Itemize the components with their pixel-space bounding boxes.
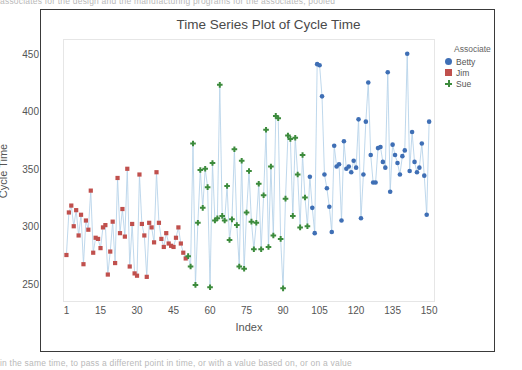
square-marker — [120, 207, 124, 211]
circle-marker — [410, 130, 415, 135]
circle-marker — [351, 158, 356, 163]
x-tick-label: 45 — [168, 305, 179, 316]
square-marker — [150, 225, 154, 229]
square-marker — [89, 189, 93, 193]
square-marker — [81, 262, 85, 266]
plus-marker — [227, 237, 233, 243]
square-marker — [98, 246, 102, 250]
plus-marker — [246, 168, 252, 174]
circle-marker — [412, 160, 417, 165]
circle-marker — [339, 218, 344, 223]
square-marker — [152, 240, 156, 244]
y-axis-label-text: Cycle Time — [0, 143, 9, 197]
x-tick-label: 60 — [204, 305, 215, 316]
x-axis-ticks: 1153045607590105120135150 — [63, 305, 435, 319]
plus-marker — [302, 195, 308, 201]
plus-marker — [205, 184, 211, 190]
y-tick-label: 300 — [17, 221, 39, 232]
document-text-below: in the same time, to pass a different po… — [0, 358, 522, 370]
circle-marker — [373, 180, 378, 185]
circle-marker — [327, 204, 332, 209]
plus-marker — [271, 233, 277, 239]
square-marker — [86, 228, 90, 232]
circle-marker — [398, 172, 403, 177]
square-marker — [179, 241, 183, 245]
screenshot-page: associates for the design and the manufa… — [0, 0, 522, 370]
square-marker — [171, 245, 175, 249]
square-marker — [154, 170, 158, 174]
square-marker — [77, 233, 81, 237]
circle-marker — [347, 164, 352, 169]
square-marker — [111, 220, 115, 224]
circle-marker — [402, 148, 407, 153]
plus-marker — [268, 164, 274, 170]
square-marker — [135, 274, 139, 278]
plus-marker — [195, 220, 201, 226]
x-tick-label: 30 — [131, 305, 142, 316]
circle-marker — [308, 175, 313, 180]
circle-marker — [385, 70, 390, 75]
series-jim — [64, 167, 187, 279]
circle-marker — [312, 231, 317, 236]
x-tick-label: 1 — [64, 305, 70, 316]
y-axis-label: Cycle Time — [0, 39, 11, 302]
y-tick-label: 450 — [17, 48, 39, 59]
x-tick-label: 105 — [311, 305, 328, 316]
plus-marker — [232, 146, 238, 152]
plus-marker — [193, 282, 199, 288]
circle-marker — [356, 117, 361, 122]
chart-figure: Time Series Plot of Cycle Time Cycle Tim… — [40, 9, 495, 352]
legend-entries: BettyJimSue — [445, 56, 495, 89]
legend-title: Associate — [445, 44, 495, 54]
circle-marker — [415, 170, 420, 175]
circle-marker — [405, 52, 410, 57]
plus-marker — [295, 172, 301, 178]
plus-marker — [283, 196, 289, 202]
plus-marker — [266, 244, 272, 250]
plus-marker — [249, 219, 255, 225]
circle-marker — [361, 172, 366, 177]
circle-marker — [354, 165, 359, 170]
square-marker — [91, 251, 95, 255]
square-marker — [115, 176, 119, 180]
square-marker — [69, 203, 73, 207]
circle-marker — [349, 170, 354, 175]
circle-marker — [424, 212, 429, 217]
plus-marker — [254, 220, 260, 226]
square-marker — [162, 245, 166, 249]
square-marker — [72, 224, 76, 228]
square-marker — [64, 253, 68, 257]
legend-entry-jim[interactable]: Jim — [445, 67, 495, 78]
circle-marker — [364, 119, 369, 124]
square-marker — [157, 221, 161, 225]
legend-entry-betty[interactable]: Betty — [445, 56, 495, 67]
plus-marker — [278, 236, 284, 242]
plus-marker — [229, 217, 235, 223]
plus-marker — [234, 222, 240, 228]
plus-marker — [241, 266, 247, 272]
square-marker — [106, 272, 110, 276]
circle-marker — [322, 172, 327, 177]
legend-entry-label: Jim — [456, 68, 469, 78]
plus-marker — [300, 152, 306, 158]
circle-marker — [388, 189, 393, 194]
circle-marker — [329, 230, 334, 235]
plus-marker — [217, 82, 223, 88]
square-marker — [128, 264, 132, 268]
plus-marker — [190, 141, 196, 147]
square-marker — [174, 236, 178, 240]
plus-marker — [244, 210, 250, 216]
plus-marker — [188, 264, 194, 270]
square-marker — [113, 261, 117, 265]
square-marker — [130, 222, 134, 226]
square-marker — [140, 222, 144, 226]
plus-marker — [224, 183, 230, 189]
circle-marker — [342, 139, 347, 144]
legend-entry-label: Sue — [456, 79, 471, 89]
plus-marker — [290, 213, 296, 219]
square-marker — [181, 251, 185, 255]
legend-entry-sue[interactable]: Sue — [445, 78, 495, 89]
plus-marker — [256, 181, 262, 187]
circle-marker — [337, 162, 342, 167]
circle-marker — [310, 206, 315, 211]
